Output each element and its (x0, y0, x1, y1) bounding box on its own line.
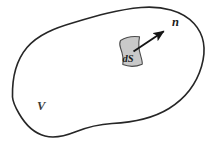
normal-vector-label: n (172, 15, 179, 29)
figure-canvas: n V dS (0, 0, 211, 146)
volume-diagram: n V dS (0, 0, 211, 146)
surface-element-label: dS (123, 53, 134, 64)
